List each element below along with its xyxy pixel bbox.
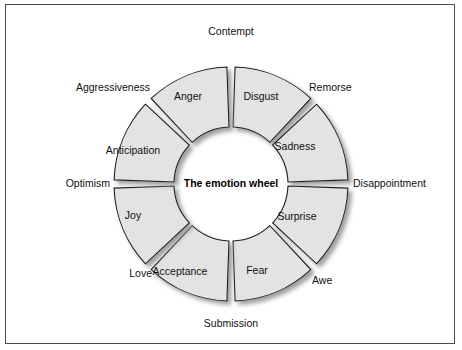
segment-label-anticipation: Anticipation: [106, 144, 160, 156]
emotion-wheel-figure: DisgustSadnessSurpriseFearAcceptanceJoyA…: [0, 0, 462, 350]
dyad-label-love: Love: [129, 267, 152, 279]
dyad-label-awe: Awe: [312, 274, 332, 286]
segment-label-acceptance: Acceptance: [153, 265, 208, 277]
segment-label-sadness: Sadness: [275, 140, 316, 152]
segment-label-disgust: Disgust: [243, 90, 278, 102]
dyad-label-disappointment: Disappointment: [353, 177, 426, 189]
dyad-label-aggressiveness: Aggressiveness: [76, 81, 150, 93]
segment-label-surprise: Surprise: [277, 210, 316, 222]
segment-label-fear: Fear: [246, 264, 268, 276]
dyad-label-submission: Submission: [204, 317, 258, 329]
center-title: The emotion wheel: [184, 177, 279, 189]
dyad-label-contempt: Contempt: [208, 25, 254, 37]
emotion-wheel-diagram: DisgustSadnessSurpriseFearAcceptanceJoyA…: [0, 0, 462, 350]
segment-label-anger: Anger: [174, 90, 203, 102]
dyad-label-remorse: Remorse: [309, 81, 352, 93]
segment-label-joy: Joy: [125, 209, 142, 221]
dyad-label-optimism: Optimism: [66, 177, 111, 189]
